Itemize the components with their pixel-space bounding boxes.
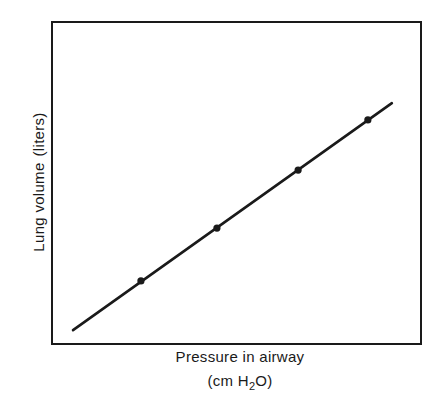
data-line <box>73 103 392 330</box>
data-point <box>213 224 220 231</box>
y-axis-label-units: (liters) <box>30 112 47 156</box>
data-point <box>364 116 371 123</box>
data-point <box>137 277 144 284</box>
data-point <box>295 167 302 174</box>
plot-frame <box>52 22 421 344</box>
y-axis-label-main: Lung volume <box>30 162 47 251</box>
x-axis-units: (cm H2O) <box>0 372 443 392</box>
x-axis-units-prefix: (cm H <box>207 372 249 389</box>
y-axis-label: Lung volume(liters) <box>30 112 47 251</box>
x-axis-units-suffix: O) <box>255 372 272 389</box>
x-axis-label: Pressure in airway <box>0 348 443 365</box>
